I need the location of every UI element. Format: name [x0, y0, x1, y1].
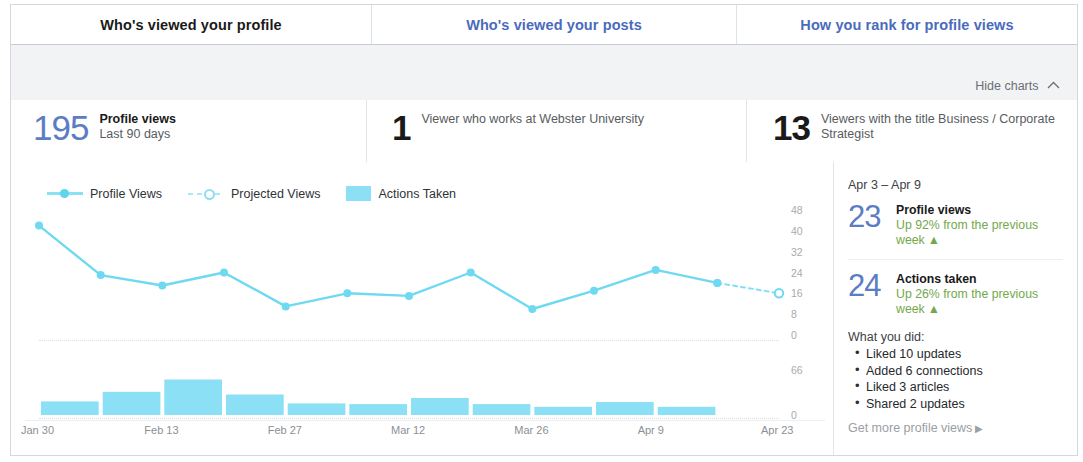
tab-label: Who's viewed your profile: [100, 17, 282, 33]
stat-title: Profile views: [99, 112, 175, 127]
summary-stats-row: 195 Profile views Last 90 days 1 Viewer …: [11, 100, 1077, 162]
tab-label: Who's viewed your posts: [466, 17, 642, 33]
dashboard-card: 195 Profile views Last 90 days 1 Viewer …: [10, 100, 1078, 456]
legend-label: Projected Views: [231, 187, 320, 201]
bar-chart: [39, 370, 779, 415]
x-tick-label: Apr 9: [638, 424, 664, 436]
what-you-did-title: What you did:: [848, 330, 1063, 344]
x-axis-labels: Jan 30Feb 13Feb 27Mar 12Mar 26Apr 9Apr 2…: [11, 424, 833, 454]
get-more-profile-views-link[interactable]: Get more profile views▶: [848, 421, 1063, 435]
stat-value: 1: [392, 110, 410, 145]
weekly-stat-delta: Up 92% from the previous week▲: [896, 218, 1063, 248]
weekly-summary-panel: Apr 3 – Apr 9 23 Profile views Up 92% fr…: [833, 162, 1077, 455]
y-tick-label: 0: [791, 329, 797, 341]
stat-profile-views: 195 Profile views Last 90 days: [11, 100, 366, 162]
stat-title: Viewer who works at Webster University: [421, 112, 644, 127]
weekly-stat-value: 23: [848, 201, 896, 232]
tab-bar: Who's viewed your profile Who's viewed y…: [10, 4, 1078, 45]
caret-right-icon: ▶: [975, 423, 983, 434]
stat-viewer-company: 1 Viewer who works at Webster University: [366, 100, 746, 162]
panel-divider: [848, 259, 1063, 260]
tab-whos-viewed-your-posts[interactable]: Who's viewed your posts: [371, 5, 736, 44]
swatch-icon: [346, 186, 371, 201]
week-range-label: Apr 3 – Apr 9: [848, 178, 1063, 192]
chart-divider-top: [39, 340, 779, 341]
tab-label: How you rank for profile views: [800, 17, 1013, 33]
list-item: Shared 2 updates: [866, 396, 1063, 413]
stat-description: Viewer who works at Webster University: [421, 110, 644, 127]
weekly-stat-actions-taken: 24 Actions taken Up 26% from the previou…: [848, 270, 1063, 328]
toolbar-strip: Hide charts: [10, 45, 1078, 100]
legend-label: Actions Taken: [378, 187, 456, 201]
weekly-stat-profile-views: 23 Profile views Up 92% from the previou…: [848, 201, 1063, 259]
solid-line-icon: [47, 192, 83, 195]
chart-legend: Profile Views Projected Views Actions Ta…: [47, 186, 456, 201]
weekly-stat-delta-text: Up 92% from the previous week: [896, 218, 1038, 247]
y-tick-label: 48: [791, 204, 803, 216]
x-tick-label: Jan 30: [21, 424, 54, 436]
weekly-stat-delta: Up 26% from the previous week▲: [896, 287, 1063, 317]
tab-how-you-rank[interactable]: How you rank for profile views: [736, 5, 1077, 44]
stat-value: 195: [33, 110, 88, 145]
stat-viewer-title: 13 Viewers with the title Business / Cor…: [746, 100, 1077, 162]
stat-value: 13: [773, 110, 810, 145]
weekly-stat-value: 24: [848, 270, 896, 301]
y-tick-label: 24: [791, 267, 803, 279]
stat-description: Viewers with the title Business / Corpor…: [821, 110, 1076, 142]
x-tick-label: Apr 23: [761, 424, 793, 436]
what-you-did-list: Liked 10 updatesAdded 6 connectionsLiked…: [848, 346, 1063, 412]
get-more-label: Get more profile views: [848, 421, 972, 435]
legend-item-actions-taken[interactable]: Actions Taken: [346, 186, 456, 201]
hide-charts-label: Hide charts: [975, 79, 1038, 93]
arrow-up-icon: ▲: [928, 233, 940, 248]
line-chart: [39, 210, 779, 335]
list-item: Liked 10 updates: [866, 346, 1063, 363]
dashed-line-icon: [188, 193, 224, 195]
weekly-stat-body: Profile views Up 92% from the previous w…: [896, 201, 1063, 248]
chart-divider-bottom: [39, 418, 779, 419]
stat-subtitle: Last 90 days: [99, 127, 175, 142]
stat-description: Profile views Last 90 days: [99, 110, 175, 142]
list-item: Added 6 connections: [866, 363, 1063, 380]
weekly-stat-body: Actions taken Up 26% from the previous w…: [896, 270, 1063, 317]
arrow-up-icon: ▲: [928, 302, 940, 317]
y-tick-label: 32: [791, 246, 803, 258]
weekly-stat-title: Actions taken: [896, 272, 1063, 287]
x-tick-label: Feb 13: [144, 424, 178, 436]
legend-item-profile-views[interactable]: Profile Views: [47, 187, 162, 201]
y-axis-labels: 484032241680660: [783, 162, 827, 455]
weekly-stat-title: Profile views: [896, 203, 1063, 218]
hide-charts-button[interactable]: Hide charts: [975, 79, 1060, 93]
profile-views-dashboard: Who's viewed your profile Who's viewed y…: [0, 0, 1083, 462]
tab-whos-viewed-your-profile[interactable]: Who's viewed your profile: [11, 5, 371, 44]
x-tick-label: Mar 26: [514, 424, 548, 436]
x-tick-label: Mar 12: [391, 424, 425, 436]
y-tick-label: 8: [791, 308, 797, 320]
x-tick-label: Feb 27: [268, 424, 302, 436]
axis-rule: [25, 420, 825, 421]
stat-title: Viewers with the title Business / Corpor…: [821, 112, 1076, 142]
y-tick-label: 16: [791, 287, 803, 299]
list-item: Liked 3 articles: [866, 379, 1063, 396]
y-tick-label: 66: [791, 364, 803, 376]
weekly-stat-delta-text: Up 26% from the previous week: [896, 287, 1038, 316]
legend-label: Profile Views: [90, 187, 162, 201]
legend-item-projected-views[interactable]: Projected Views: [188, 187, 320, 201]
chevron-up-icon: [1047, 78, 1060, 92]
charts-area: Profile Views Projected Views Actions Ta…: [11, 162, 833, 455]
y-tick-label: 40: [791, 225, 803, 237]
